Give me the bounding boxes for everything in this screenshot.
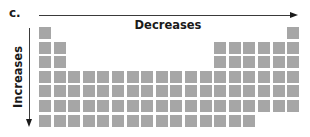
element-cell [200,100,212,112]
element-cell [83,85,95,97]
panel-label: c. [9,6,21,20]
element-cell [54,42,66,54]
element-cell [229,42,241,54]
vertical-axis-label: Increases [11,42,25,112]
element-cell [273,56,285,68]
element-cell [54,71,66,83]
element-cell [141,100,153,112]
element-cell [39,100,51,112]
element-cell [141,85,153,97]
element-cell [68,115,80,127]
element-cell [243,71,255,83]
element-cell [97,115,109,127]
element-cell [273,85,285,97]
element-cell [83,71,95,83]
element-cell [185,71,197,83]
element-cell [39,27,51,39]
element-cell [112,71,124,83]
element-cell [287,27,299,39]
element-cell [258,56,270,68]
element-cell [258,85,270,97]
element-cell [287,85,299,97]
element-cell [112,100,124,112]
element-cell [185,100,197,112]
element-cell [200,115,212,127]
element-cell [127,85,139,97]
element-cell [258,100,270,112]
element-cell [54,85,66,97]
element-cell [170,100,182,112]
element-cell [243,56,255,68]
element-cell [156,100,168,112]
element-cell [287,71,299,83]
element-cell [214,56,226,68]
element-cell [214,100,226,112]
element-cell [287,42,299,54]
element-cell [170,85,182,97]
element-cell [243,115,255,127]
element-cell [170,115,182,127]
element-cell [243,100,255,112]
element-cell [185,115,197,127]
element-cell [39,71,51,83]
element-cell [214,85,226,97]
arrow-right-icon [290,12,298,18]
element-cell [127,100,139,112]
element-cell [200,71,212,83]
element-cell [185,85,197,97]
element-cell [141,71,153,83]
element-cell [243,85,255,97]
element-cell [229,71,241,83]
element-cell [127,115,139,127]
element-cell [229,85,241,97]
element-cell [68,71,80,83]
element-cell [39,85,51,97]
element-cell [287,56,299,68]
element-cell [229,115,241,127]
element-cell [200,85,212,97]
element-cell [287,100,299,112]
element-cell [97,85,109,97]
element-cell [156,115,168,127]
element-cell [54,56,66,68]
horizontal-arrow-line [39,15,292,16]
element-cell [39,115,51,127]
element-cell [273,100,285,112]
element-cell [97,100,109,112]
element-cell [273,71,285,83]
element-cell [83,100,95,112]
element-cell [112,85,124,97]
element-cell [170,71,182,83]
element-cell [68,100,80,112]
element-cell [243,42,255,54]
arrow-down-icon [26,119,32,127]
element-cell [54,100,66,112]
element-cell [39,56,51,68]
element-cell [141,115,153,127]
element-cell [54,115,66,127]
element-cell [97,71,109,83]
element-cell [68,85,80,97]
element-cell [214,115,226,127]
vertical-arrow-line [29,28,30,121]
element-cell [273,42,285,54]
element-cell [156,71,168,83]
element-cell [258,42,270,54]
element-cell [214,42,226,54]
element-cell [127,71,139,83]
element-cell [229,100,241,112]
element-cell [214,71,226,83]
element-cell [39,42,51,54]
element-cell [156,85,168,97]
element-cell [229,56,241,68]
element-cell [83,115,95,127]
element-cell [112,115,124,127]
element-cell [258,71,270,83]
periodic-table-grid [39,27,301,129]
